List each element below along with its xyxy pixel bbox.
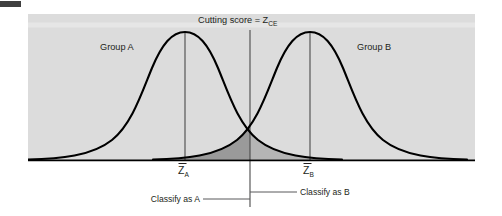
group-b-label: Group B <box>357 42 391 52</box>
classify-as-b-label: Classify as B <box>300 187 350 197</box>
classify-as-a-label: Classify as A <box>151 194 200 204</box>
mean-a-tick-label: ZA <box>178 164 189 178</box>
cutting-score-title-text: Cutting score = Z <box>198 15 269 25</box>
discriminant-cutting-score-figure: Cutting score = ZCE Group A Group B ZA Z… <box>0 0 502 216</box>
group-a-label: Group A <box>100 42 135 52</box>
svg-text:ZA: ZA <box>178 164 189 178</box>
cutting-score-title-subscript: CE <box>268 20 278 27</box>
figure-canvas: Cutting score = ZCE Group A Group B ZA Z… <box>0 0 502 216</box>
mean-b-tick-label: ZB <box>303 164 314 178</box>
mean-a-subscript: A <box>184 171 189 178</box>
corner-mark-artifact <box>0 1 21 7</box>
svg-text:ZB: ZB <box>303 164 314 178</box>
cutting-score-title: Cutting score = ZCE <box>198 15 278 27</box>
mean-b-subscript: B <box>309 171 314 178</box>
